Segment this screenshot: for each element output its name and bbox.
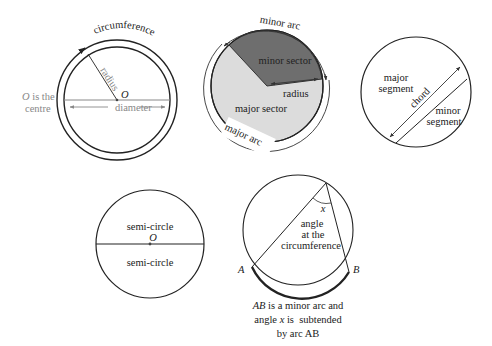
sectors-figure: minor sector radius major sector minor a… <box>204 14 330 157</box>
minor-segment-line2: segment <box>427 116 462 127</box>
centre-letter: O <box>121 89 129 100</box>
caption-line2: angle x is subtended <box>254 314 342 325</box>
centre-point <box>116 99 119 102</box>
circle-parts-figure: circumference diameter radius O O is the… <box>22 19 177 160</box>
segment-circle <box>361 37 471 147</box>
angle-circle <box>243 175 353 285</box>
major-sector-label: major sector <box>235 103 288 114</box>
circle-parts-diagram: circumference diameter radius O O is the… <box>0 0 492 346</box>
diameter-label: diameter <box>115 102 152 113</box>
point-a-label: A <box>237 264 245 275</box>
centre-note-line1: O is the <box>22 91 55 102</box>
semicircle-figure: semi-circle O semi-circle <box>96 190 204 298</box>
semicircle-upper-label: semi-circle <box>127 221 174 232</box>
caption-line3: by arc AB <box>277 328 320 339</box>
angle-figure: x angle at the circumference A B AB is a… <box>237 175 360 339</box>
minor-arc-arrow-right-icon <box>325 74 326 80</box>
major-segment-line2: segment <box>379 83 414 94</box>
caption-line1: AB is a minor arc and <box>252 300 344 311</box>
chord-to-b <box>326 183 349 272</box>
centre-note-line2: centre <box>25 103 51 114</box>
segments-figure: chord major segment minor segment <box>361 37 471 147</box>
semicircle-lower-label: semi-circle <box>127 257 174 268</box>
minor-sector-label: minor sector <box>259 55 312 66</box>
angle-label-line2: at the <box>301 229 324 240</box>
angle-letter: x <box>320 203 326 214</box>
minor-segment-line1: minor <box>435 105 461 116</box>
semicircle-centre-letter: O <box>149 232 157 243</box>
major-segment-line1: major <box>384 72 409 83</box>
sector-radius-label: radius <box>283 88 309 99</box>
circumference-label: circumference <box>91 19 157 38</box>
radius-label: radius <box>98 65 121 93</box>
point-b-label: B <box>353 264 360 275</box>
angle-label-line3: circumference <box>281 240 341 251</box>
semicircle-centre-point <box>149 243 152 246</box>
angle-label-line1: angle <box>301 218 324 229</box>
